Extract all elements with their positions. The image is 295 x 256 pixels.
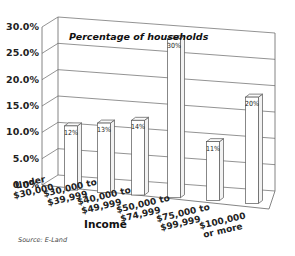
x-axis-label: Income xyxy=(84,218,127,230)
bar: 30% xyxy=(167,36,185,198)
y-tick-label: 15.0% xyxy=(6,100,39,111)
chart-title: Percentage of households xyxy=(69,31,209,42)
bar-chart: 0.0%5.0%10.0%15.0%20.0%25.0%30.0% 12%13%… xyxy=(0,0,295,256)
bar-value-label: 30% xyxy=(167,42,181,50)
y-tick-label: 20.0% xyxy=(6,74,39,85)
bar-value-label: 11% xyxy=(206,145,220,153)
y-tick-label: 25.0% xyxy=(6,47,39,58)
bar-value-label: 13% xyxy=(97,126,111,134)
bar-value-label: 14% xyxy=(131,123,145,131)
y-tick-label: 30.0% xyxy=(6,21,39,32)
bar-value-label: 20% xyxy=(245,100,259,108)
y-tick-label: 10.0% xyxy=(6,126,39,137)
x-tick-label: $100,000or more xyxy=(198,211,248,241)
y-axis-ticks: 0.0%5.0%10.0%15.0%20.0%25.0%30.0% xyxy=(6,21,39,190)
bar-value-label: 12% xyxy=(64,129,78,137)
y-tick-label: 5.0% xyxy=(13,153,40,164)
bar: 11% xyxy=(206,139,224,201)
bar: 14% xyxy=(131,117,149,195)
source-note: Source: E-Land xyxy=(18,236,68,244)
bar: 13% xyxy=(97,120,115,192)
bar: 20% xyxy=(245,94,263,203)
